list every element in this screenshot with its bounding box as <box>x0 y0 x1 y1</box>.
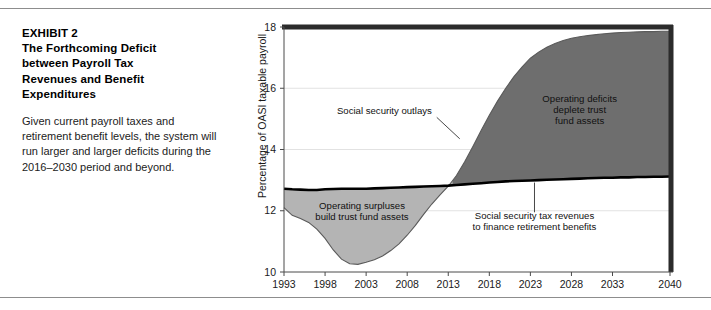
x-tick-label-1993: 1993 <box>272 278 296 290</box>
outlays-label: Social security outlays <box>337 105 432 116</box>
x-tick-label-2033: 2033 <box>601 278 625 290</box>
exhibit-title: EXHIBIT 2 The Forthcoming Deficit betwee… <box>22 26 218 102</box>
exhibit-title-line-5: Expenditures <box>22 87 218 102</box>
exhibit-title-line-2: The Forthcoming Deficit <box>22 41 218 56</box>
exhibit-figure: EXHIBIT 2 The Forthcoming Deficit betwee… <box>0 0 711 310</box>
x-tick-label-2028: 2028 <box>560 278 584 290</box>
exhibit-description: Given current payroll taxes and retireme… <box>22 114 218 175</box>
area-chart-svg: 1012141618199319982003200820132018202320… <box>224 14 694 296</box>
surplus-label: Operating surplusesbuild trust fund asse… <box>315 200 409 222</box>
top-divider-rule <box>0 8 711 9</box>
y-tick-label-12: 12 <box>264 204 276 216</box>
y-tick-label-10: 10 <box>264 266 276 278</box>
caption-panel: EXHIBIT 2 The Forthcoming Deficit betwee… <box>22 26 218 175</box>
x-tick-label-2023: 2023 <box>519 278 543 290</box>
y-tick-label-16: 16 <box>264 82 276 94</box>
x-tick-label-2040: 2040 <box>658 278 682 290</box>
chart-container: Percentage of OASI taxable payroll 10121… <box>224 14 694 296</box>
x-tick-label-1998: 1998 <box>313 278 337 290</box>
exhibit-title-line-1: EXHIBIT 2 <box>22 26 218 41</box>
x-tick-label-2018: 2018 <box>478 278 502 290</box>
y-tick-label-18: 18 <box>264 21 276 33</box>
outlays-leader-line <box>437 117 460 138</box>
x-tick-label-2013: 2013 <box>437 278 461 290</box>
y-tick-label-14: 14 <box>264 143 276 155</box>
x-tick-label-2008: 2008 <box>396 278 420 290</box>
exhibit-title-line-3: between Payroll Tax <box>22 56 218 71</box>
exhibit-title-line-4: Revenues and Benefit <box>22 72 218 87</box>
x-tick-label-2003: 2003 <box>354 278 378 290</box>
revenue-label: Social security tax revenuesto finance r… <box>473 210 597 232</box>
bottom-divider-rule <box>0 297 711 298</box>
